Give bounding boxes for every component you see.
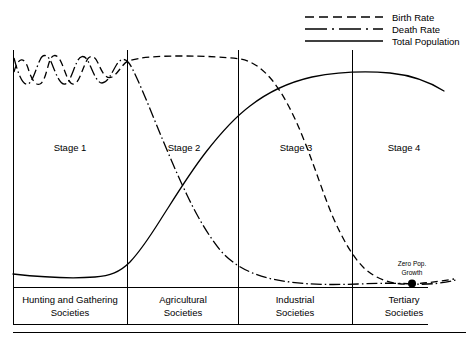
zpg-label-line2: Growth [402,269,423,276]
society-label-2-line2: Societies [164,307,203,318]
stage-label-4: Stage 4 [388,142,421,153]
society-label-4-line2: Societies [385,307,424,318]
society-label-4-line1: Tertiary [388,294,419,305]
legend-label-total-population: Total Population [392,36,460,47]
society-label-3-line1: Industrial [276,294,315,305]
demographic-transition-chart: Birth Rate Death Rate Total Population Z… [0,0,476,345]
zpg-marker-dot [408,280,416,288]
society-label-1-line1: Hunting and Gathering [22,294,118,305]
zpg-label-line1: Zero Pop. [398,260,427,268]
legend-label-birth-rate: Birth Rate [392,12,434,23]
stage-label-3: Stage 3 [280,142,313,153]
legend-label-death-rate: Death Rate [392,24,440,35]
society-label-2-line1: Agricultural [159,294,207,305]
society-label-3-line2: Societies [276,307,315,318]
stage-label-2: Stage 2 [168,142,201,153]
stage-label-1: Stage 1 [54,142,87,153]
society-label-1-line2: Societies [51,307,90,318]
